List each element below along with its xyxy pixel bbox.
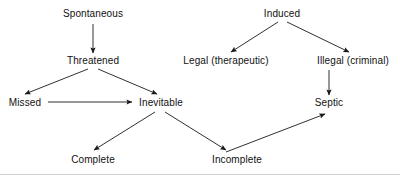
bottom-divider — [0, 174, 400, 175]
flow-diagram: Spontaneous Induced Threatened Legal (th… — [0, 0, 400, 175]
edge-threatened-missed — [25, 69, 88, 94]
node-septic: Septic — [315, 97, 343, 109]
edge-inevitable-complete — [94, 112, 155, 150]
edge-layer — [0, 0, 400, 175]
node-incomplete: Incomplete — [212, 154, 262, 166]
node-spontaneous: Spontaneous — [63, 8, 123, 20]
node-legal-therapeutic: Legal (therapeutic) — [183, 55, 268, 67]
node-illegal-criminal: Illegal (criminal) — [317, 55, 389, 67]
edge-induced-legal — [231, 22, 278, 52]
node-threatened: Threatened — [67, 55, 119, 67]
node-inevitable: Inevitable — [139, 97, 183, 109]
edge-threatened-inevitable — [98, 69, 157, 94]
node-complete: Complete — [71, 154, 115, 166]
edge-incomplete-septic — [226, 114, 325, 152]
node-missed: Missed — [9, 97, 41, 109]
edge-inevitable-incomplete — [165, 112, 226, 150]
node-induced: Induced — [264, 8, 300, 20]
edge-induced-illegal — [287, 22, 349, 52]
